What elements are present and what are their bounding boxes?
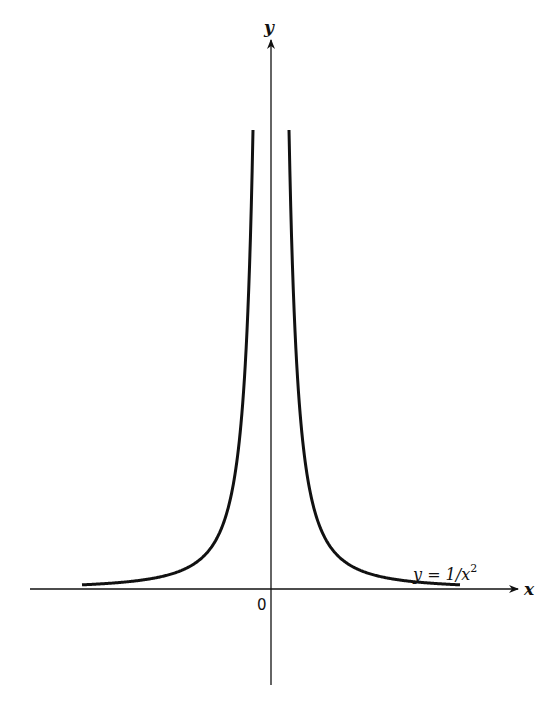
- curve-label-prefix: y = 1/: [412, 565, 463, 584]
- curve-left-branch: [82, 130, 253, 585]
- curve-label-exponent: 2: [470, 562, 477, 575]
- x-axis-label: x: [523, 579, 535, 599]
- curve-right-branch: [289, 130, 460, 585]
- y-axis-label: y: [263, 17, 275, 37]
- graph-figure: y x 0 y = 1/x2: [0, 0, 552, 702]
- origin-label: 0: [257, 596, 267, 614]
- curve-label: y = 1/x2: [412, 562, 477, 584]
- curve-label-var: x: [461, 565, 470, 584]
